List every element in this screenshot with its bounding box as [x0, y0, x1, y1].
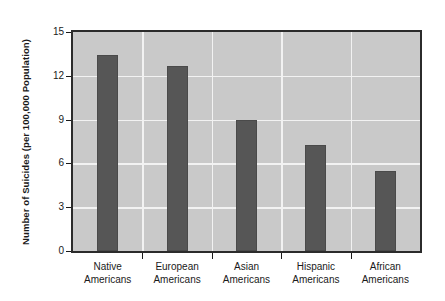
x-axis-category-label: NativeAmericans [73, 260, 142, 286]
plot-area [71, 30, 422, 253]
bar [236, 120, 257, 251]
vertical-gridline [281, 32, 283, 251]
x-axis-category-label-line1: Hispanic [281, 260, 350, 273]
x-axis-tick-marks [71, 253, 422, 259]
x-axis-category-label-line2: Americans [212, 273, 281, 286]
x-axis-category-label-line2: Americans [351, 273, 420, 286]
y-axis-tick-label: 15 [42, 27, 64, 37]
bar-chart-figure: Number of Suicides (per 100,000 Populati… [0, 0, 445, 301]
x-axis-tick-mark [281, 253, 282, 259]
y-axis-title-container: Number of Suicides (per 100,000 Populati… [14, 31, 36, 252]
x-axis-category-label: EuropeanAmericans [142, 260, 211, 286]
x-axis-category-label-line2: Americans [73, 273, 142, 286]
horizontal-gridline [73, 76, 420, 78]
y-axis-tick-label: 9 [42, 115, 64, 125]
x-axis-category-label-line1: Asian [212, 260, 281, 273]
bar [97, 55, 118, 251]
plot-inner [73, 32, 420, 251]
y-axis-tick-label: 6 [42, 158, 64, 168]
bar [305, 145, 326, 251]
vertical-gridline [212, 32, 214, 251]
x-axis-category-label: HispanicAmericans [281, 260, 350, 286]
x-axis-tick-mark [351, 253, 352, 259]
y-axis-tick-label: 3 [42, 202, 64, 212]
y-axis-title: Number of Suicides (per 100,000 Populati… [20, 39, 31, 245]
x-axis-category-label: AfricanAmericans [351, 260, 420, 286]
x-axis-category-label-line2: Americans [281, 273, 350, 286]
y-axis-tick-label: 0 [42, 246, 64, 256]
x-axis-category-label-line1: Native [73, 260, 142, 273]
bar [375, 171, 396, 251]
x-axis-category-label-line1: African [351, 260, 420, 273]
bar [167, 66, 188, 251]
x-axis-category-label-line2: Americans [142, 273, 211, 286]
vertical-gridline [351, 32, 353, 251]
x-axis-category-label: AsianAmericans [212, 260, 281, 286]
x-axis-tick-mark [142, 253, 143, 259]
y-axis-tick-labels: 03691215 [42, 0, 64, 301]
vertical-gridline [142, 32, 144, 251]
x-axis-category-labels: NativeAmericansEuropeanAmericansAsianAme… [71, 260, 422, 298]
y-axis-tick-label: 12 [42, 71, 64, 81]
x-axis-category-label-line1: European [142, 260, 211, 273]
x-axis-tick-mark [212, 253, 213, 259]
